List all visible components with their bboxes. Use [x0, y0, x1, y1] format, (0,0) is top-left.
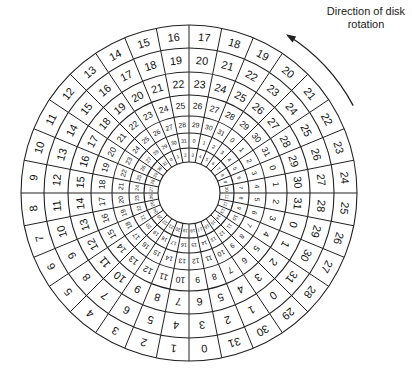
sector-divider: [47, 217, 71, 222]
sector-divider: [70, 74, 86, 90]
sector-number: 1: [176, 154, 180, 160]
sector-divider: [170, 269, 174, 290]
sector-number: 7: [216, 166, 222, 171]
sector-number: 19: [182, 228, 188, 234]
sector-number: 3: [267, 215, 278, 223]
sector-divider: [292, 74, 308, 90]
sector-number: 25: [149, 200, 155, 207]
sector-divider: [113, 205, 130, 208]
sector-number: 4: [226, 157, 233, 163]
sector-number: 12: [84, 236, 100, 252]
sector-divider: [177, 134, 180, 149]
sector-divider: [244, 327, 253, 348]
sector-number: 30: [291, 176, 304, 189]
sector-number: 20: [117, 195, 125, 203]
sector-number: 10: [231, 214, 239, 222]
sector-number: 6: [44, 261, 57, 272]
tracks: 1718192021222324252627282930310123456789…: [21, 25, 357, 361]
sector-divider: [96, 53, 109, 72]
sector-number: 6: [196, 296, 203, 309]
sector-number: 17: [170, 239, 177, 246]
sector-number: 3: [110, 324, 121, 337]
sector-number: 7: [226, 265, 235, 276]
sector-number: 22: [172, 77, 185, 90]
sector-number: 0: [287, 220, 300, 229]
sector-number: 17: [96, 196, 107, 207]
sector-divider: [93, 174, 114, 178]
sector-number: 19: [119, 208, 128, 217]
sector-number: 5: [216, 291, 225, 304]
sector-number: 1: [246, 304, 257, 317]
sector-number: 19: [99, 161, 111, 173]
sector-number: 18: [96, 179, 107, 190]
sector-number: 8: [220, 173, 226, 178]
sector-number: 0: [169, 156, 174, 162]
sector-number: 27: [165, 123, 174, 132]
sector-number: 31: [283, 269, 300, 286]
sector-number: 24: [158, 103, 170, 115]
sector-number: 19: [111, 100, 128, 117]
sector-number: 22: [319, 111, 335, 127]
sector-number: 15: [73, 176, 86, 189]
sector-divider: [55, 239, 77, 248]
sector-number: 30: [204, 123, 213, 132]
sector-number: 1: [238, 146, 246, 154]
sector-number: 20: [129, 88, 145, 104]
sector-number: 9: [27, 174, 40, 181]
sector-number: 18: [124, 220, 134, 230]
sector-number: 13: [178, 257, 186, 265]
sector-divider: [208, 74, 212, 97]
sector-number: 26: [331, 231, 346, 246]
sector-number: 14: [73, 197, 86, 210]
sector-divider: [265, 174, 286, 178]
sector-divider: [331, 160, 354, 164]
sector-number: 12: [141, 263, 154, 276]
sector-divider: [213, 51, 218, 75]
sector-divider: [113, 178, 130, 181]
sector-divider: [165, 74, 169, 97]
sector-number: 2: [211, 143, 216, 150]
sector-number: 26: [139, 164, 147, 172]
sector-divider: [244, 216, 260, 223]
sector-number: 3: [251, 170, 259, 176]
sector-divider: [177, 237, 180, 252]
sector-number: 23: [141, 109, 154, 122]
sector-number: 16: [99, 212, 111, 224]
sector-number: 1: [202, 139, 207, 146]
sector-divider: [308, 217, 332, 222]
sector-divider: [174, 252, 177, 269]
sector-number: 6: [251, 210, 259, 216]
sector-number: 17: [196, 226, 203, 232]
sector-number: 22: [135, 205, 142, 212]
sector-number: 10: [32, 140, 47, 155]
sector-number: 15: [105, 227, 118, 240]
sector-number: 1: [279, 239, 292, 250]
sector-divider: [265, 208, 286, 212]
sector-number: 12: [191, 257, 199, 265]
sector-number: 9: [132, 283, 143, 296]
sector-number: 31: [181, 137, 187, 144]
sector-number: 27: [315, 173, 328, 186]
sector-number: 17: [198, 31, 211, 44]
sector-number: 16: [181, 242, 187, 249]
sector-divider: [270, 53, 283, 72]
sector-number: 26: [152, 128, 162, 138]
sector-number: 9: [223, 180, 229, 184]
sector-divider: [233, 181, 248, 184]
sector-divider: [218, 264, 226, 283]
sector-divider: [256, 294, 269, 314]
sector-number: 4: [261, 230, 272, 239]
sector-number: 5: [251, 243, 262, 253]
sector-divider: [323, 248, 344, 257]
sector-number: 27: [144, 155, 152, 163]
sector-number: 3: [252, 271, 264, 284]
sector-number: 25: [140, 135, 150, 145]
sector-number: 19: [255, 47, 271, 63]
sector-divider: [208, 289, 212, 312]
sector-number: 30: [250, 131, 264, 145]
sector-number: 6: [239, 255, 249, 266]
sector-divider: [270, 314, 283, 333]
sector-number: 1: [170, 342, 177, 355]
sector-number: 13: [210, 235, 218, 243]
sector-number: 11: [96, 254, 112, 270]
